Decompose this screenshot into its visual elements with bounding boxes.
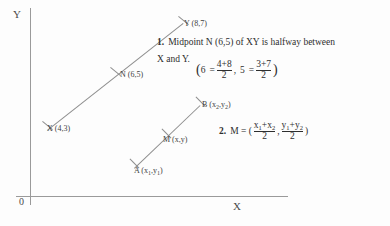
point-label-b-prefix: B (x	[202, 100, 216, 109]
y-axis-line	[30, 8, 31, 205]
midpoint-diagram-page: Y X 0 X (4,3) N (6,5) Y (8,7) A (x1,y1) …	[0, 0, 390, 226]
equation-one-fraction-y-numerator: 3+7	[256, 60, 271, 70]
statement-two-fraction-x: x1+x2 2	[254, 121, 275, 142]
equation-one-equals: =	[209, 65, 214, 75]
statement-two-fraction-x-numerator: x1+x2	[254, 121, 275, 131]
fraction-x-plus: +x	[262, 120, 272, 130]
statement-two-fraction-x-denominator: 2	[254, 131, 275, 142]
x-axis-line	[16, 196, 288, 197]
statement-two-equation: 2. M = ( x1+x2 2 , y1+y2 2 )	[219, 121, 308, 142]
statement-one-line-one: 1.Midpoint N (6,5) of XY is halfway betw…	[157, 37, 335, 47]
point-label-b-sub1: 2	[216, 104, 219, 110]
statement-two-lead: M = (	[230, 126, 252, 136]
statement-two-fraction-y-numerator: y1+y2	[282, 121, 303, 131]
equation-one-comma: ,	[234, 65, 236, 75]
statement-two-fraction-y: y1+y2 2	[282, 121, 303, 142]
fraction-x-sub-two: 2	[272, 124, 275, 131]
equation-one-equals-two: =	[249, 65, 254, 75]
point-label-a-sub1: 1	[148, 170, 151, 176]
origin-label: 0	[19, 196, 24, 207]
equation-one-left-value: 6	[201, 65, 206, 75]
statement-one-text-line1: Midpoint N (6,5) of XY is halfway betwee…	[168, 37, 335, 47]
equation-one-fraction-x: 4+8 2	[217, 60, 232, 81]
y-axis-label: Y	[13, 8, 21, 20]
fraction-x-term-one: x	[254, 120, 259, 130]
equation-one-fraction-x-numerator: 4+8	[217, 60, 232, 70]
point-label-a-prefix: A (x	[134, 166, 148, 175]
point-label-a-sub2: 1	[157, 170, 160, 176]
statement-two-comma: ,	[277, 126, 279, 136]
statement-one-number: 1.	[157, 37, 164, 47]
point-label-a-suffix: )	[160, 166, 163, 175]
point-label-m: M (x,y)	[163, 135, 187, 144]
equation-one-fraction-x-denominator: 2	[217, 70, 232, 81]
point-label-b-suffix: )	[228, 100, 231, 109]
statement-two-fraction-y-denominator: 2	[282, 131, 303, 142]
x-axis-label: X	[233, 200, 241, 212]
point-label-x: X (4,3)	[47, 124, 70, 133]
point-label-y: Y (8,7)	[184, 19, 207, 28]
equation-one-right-value: 5	[240, 65, 245, 75]
fraction-y-sub-two: 2	[300, 124, 303, 131]
fraction-x-sub-one: 1	[259, 124, 262, 131]
point-label-b: B (x2,y2)	[202, 100, 231, 109]
equation-one-close-paren: )	[273, 62, 278, 78]
point-label-n: N (6,5)	[120, 70, 143, 79]
point-label-a: A (x1,y1)	[134, 166, 163, 175]
fraction-y-sub-one: 1	[286, 124, 289, 131]
statement-one-line-two: X and Y.	[157, 54, 190, 64]
point-label-b-sub2: 2	[225, 104, 228, 110]
equation-one-fraction-y: 3+7 2	[256, 60, 271, 81]
statement-one-equation: ( 6 = 4+8 2 , 5 = 3+7 2 )	[196, 60, 278, 81]
fraction-y-plus: +y	[290, 120, 300, 130]
statement-two-close-paren: )	[305, 126, 308, 136]
statement-two-number: 2.	[219, 126, 226, 136]
equation-one-fraction-y-denominator: 2	[256, 70, 271, 81]
